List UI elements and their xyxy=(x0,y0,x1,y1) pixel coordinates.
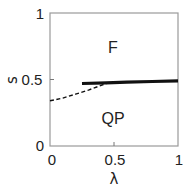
y-tick-label-1: 1 xyxy=(36,5,44,22)
solid-boundary-line xyxy=(82,81,178,84)
x-tick-label-0: 0 xyxy=(48,151,56,168)
y-tick-label-0: 0 xyxy=(36,137,44,154)
y-axis-label: s xyxy=(3,76,21,84)
region-label-F: F xyxy=(108,39,118,56)
series-layer xyxy=(50,81,178,101)
x-tick-label-1: 1 xyxy=(175,151,183,168)
dashed-boundary-line xyxy=(50,84,106,101)
y-tick-label-0.5: 0.5 xyxy=(22,71,43,88)
region-label-QP: QP xyxy=(101,110,124,127)
x-tick-label-0.5: 0.5 xyxy=(105,151,126,168)
x-axis-label: λ xyxy=(110,170,119,188)
phase-diagram: 0 0.5 1 0 0.5 1 λ s F QP xyxy=(0,0,191,189)
